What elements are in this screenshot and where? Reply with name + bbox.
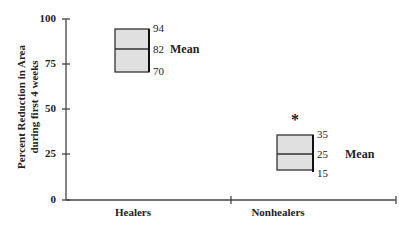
nonhealers-high-label: 35 <box>317 128 328 140</box>
healers-high-label: 94 <box>153 22 164 34</box>
nonhealers-mean-label: 25 <box>317 148 328 160</box>
healers-mean-text: Mean <box>170 42 199 57</box>
y-tick-25: 25 <box>32 147 56 159</box>
healers-mean-label: 82 <box>153 43 164 55</box>
box-healers <box>115 29 149 72</box>
y-tick-100: 100 <box>32 12 56 24</box>
nonhealers-mean-text: Mean <box>345 147 374 162</box>
nonhealers-low-label: 15 <box>317 167 328 179</box>
significance-asterisk: * <box>291 111 299 129</box>
chart-canvas <box>0 0 412 228</box>
y-tick-0: 0 <box>32 193 56 205</box>
box-nonhealers <box>277 135 313 170</box>
y-tick-75: 75 <box>32 57 56 69</box>
y-tick-50: 50 <box>32 102 56 114</box>
healers-low-label: 70 <box>153 65 164 77</box>
x-category-nonhealers: Nonhealers <box>228 206 328 218</box>
x-category-healers: Healers <box>83 206 183 218</box>
